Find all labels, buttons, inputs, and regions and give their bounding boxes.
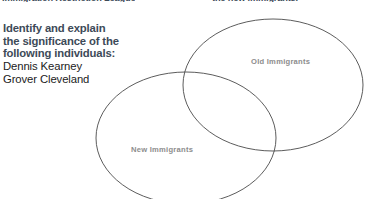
venn-circle-new-immigrants[interactable] — [96, 72, 276, 199]
venn-circle-old-immigrants[interactable] — [183, 19, 363, 151]
slide-canvas: Immigration Restriction League the new i… — [0, 0, 367, 199]
venn-diagram-svg — [0, 0, 367, 199]
venn-label-old-immigrants: Old Immigrants — [251, 57, 310, 66]
venn-label-new-immigrants: New Immigrants — [131, 145, 193, 154]
venn-diagram: Old Immigrants New Immigrants — [0, 0, 367, 199]
